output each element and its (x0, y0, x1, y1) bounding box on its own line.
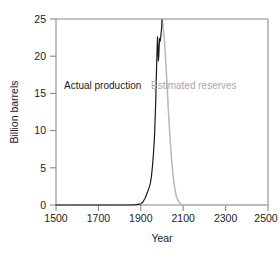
x-axis-tick-labels: 1500 1700 1900 2100 2300 2500 (44, 212, 278, 224)
y-tick-label-20: 20 (34, 50, 46, 62)
y-tick-label-15: 15 (34, 87, 46, 99)
actual-production-curve (56, 20, 162, 205)
estimated-reserves-curve (162, 20, 268, 205)
y-axis-ticks (50, 19, 56, 205)
x-axis-title: Year (151, 232, 173, 244)
chart-figure: 0 5 10 15 20 25 1500 1700 1900 2100 2300… (0, 0, 280, 254)
y-tick-label-10: 10 (34, 124, 46, 136)
x-tick-label-2500: 2500 (254, 212, 278, 224)
estimated-reserves-label: Estimated reserves (151, 80, 237, 91)
y-axis-tick-labels: 0 5 10 15 20 25 (34, 13, 46, 211)
x-tick-label-2100: 2100 (172, 212, 196, 224)
x-tick-label-1700: 1700 (87, 212, 111, 224)
actual-production-label: Actual production (64, 80, 141, 91)
x-axis-ticks (56, 205, 268, 211)
y-axis-title: Billion barrels (8, 80, 20, 143)
x-tick-label-2300: 2300 (214, 212, 238, 224)
data-curves (56, 20, 268, 205)
oil-production-reserves-chart: 0 5 10 15 20 25 1500 1700 1900 2100 2300… (0, 0, 280, 254)
y-tick-label-5: 5 (40, 162, 46, 174)
plot-frame (56, 19, 268, 205)
x-tick-label-1500: 1500 (44, 212, 68, 224)
y-tick-label-25: 25 (34, 13, 46, 25)
y-tick-label-0: 0 (40, 199, 46, 211)
x-tick-label-1900: 1900 (129, 212, 153, 224)
